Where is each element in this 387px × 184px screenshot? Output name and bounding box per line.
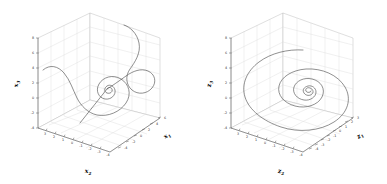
z-tick-label: 8 (32, 36, 34, 40)
z-axis-ticks: 8 6 4 2 0 -2 -4 (31, 36, 39, 130)
y-tick-label: -4 (299, 153, 302, 157)
z-tick-label: 0 (225, 96, 227, 100)
y-tick-label: 2 (246, 135, 248, 139)
y-tick-label: -2 (88, 147, 91, 151)
x-tick-label: -1 (333, 134, 336, 138)
z-axis-ticks: 8 6 4 2 0 -2 -4 (224, 36, 232, 130)
z-tick-label: 8 (225, 36, 227, 40)
y-tick-label: 3 (44, 132, 46, 136)
y-tick-label: 3 (237, 132, 239, 136)
z-tick-label: -2 (224, 111, 227, 115)
z-tick-label: 0 (32, 96, 34, 100)
x-tick-label: -2 (132, 140, 135, 144)
x-tick-label: 6 (164, 116, 166, 120)
left-3d-axes[interactable]: 8 6 4 2 0 -2 -4 3 2 1 0 -1 (0, 0, 193, 184)
x-tick-label: 2 (148, 128, 150, 132)
x-tick-label: -2 (327, 138, 330, 142)
z-tick-label: 6 (225, 51, 227, 55)
z-tick-label: 6 (32, 51, 34, 55)
y-tick-label: -4 (106, 153, 109, 157)
z-tick-label: -4 (224, 126, 227, 130)
z-tick-label: 4 (32, 66, 34, 70)
y-tick-label: -1 (79, 144, 82, 148)
axis-label-x2: x2 (84, 167, 92, 176)
y-tick-label: 0 (264, 141, 266, 145)
y-tick-label: 2 (53, 135, 55, 139)
z-tick-label: 2 (225, 81, 227, 85)
figure-canvas: 8 6 4 2 0 -2 -4 3 2 1 0 -1 (0, 0, 387, 184)
x-tick-label: 1 (345, 125, 347, 129)
x-tick-label: 0 (339, 129, 341, 133)
axis-label-z2: z2 (277, 167, 285, 176)
y-tick-label: -3 (290, 150, 293, 154)
x-tick-label: -4 (315, 147, 318, 151)
y-tick-label: 1 (62, 138, 64, 142)
x-tick-label: -3 (321, 143, 324, 147)
x-tick-label: 3 (357, 116, 359, 120)
x-tick-label: 0 (140, 134, 142, 138)
axis-label-z1: z1 (354, 130, 365, 142)
y-tick-label: 1 (255, 138, 257, 142)
z-tick-label: -4 (31, 126, 34, 130)
y-tick-label: 0 (71, 141, 73, 145)
pane-back-right (90, 13, 160, 118)
x-tick-label: 2 (351, 120, 353, 124)
axis-label-x1: x1 (161, 130, 172, 142)
x-tick-label: -4 (124, 146, 127, 150)
z-tick-label: 4 (225, 66, 227, 70)
right-3d-axes[interactable]: 8 6 4 2 0 -2 -4 3 2 1 0 -1 (193, 0, 386, 184)
x-tick-label: 4 (156, 122, 158, 126)
axis-label-z3: z3 (205, 81, 214, 89)
y-tick-label: -2 (281, 147, 284, 151)
z-tick-label: -2 (31, 111, 34, 115)
z-tick-label: 2 (32, 81, 34, 85)
axis-label-x3: x3 (12, 81, 21, 89)
y-tick-label: -3 (97, 150, 100, 154)
y-tick-label: -1 (272, 144, 275, 148)
